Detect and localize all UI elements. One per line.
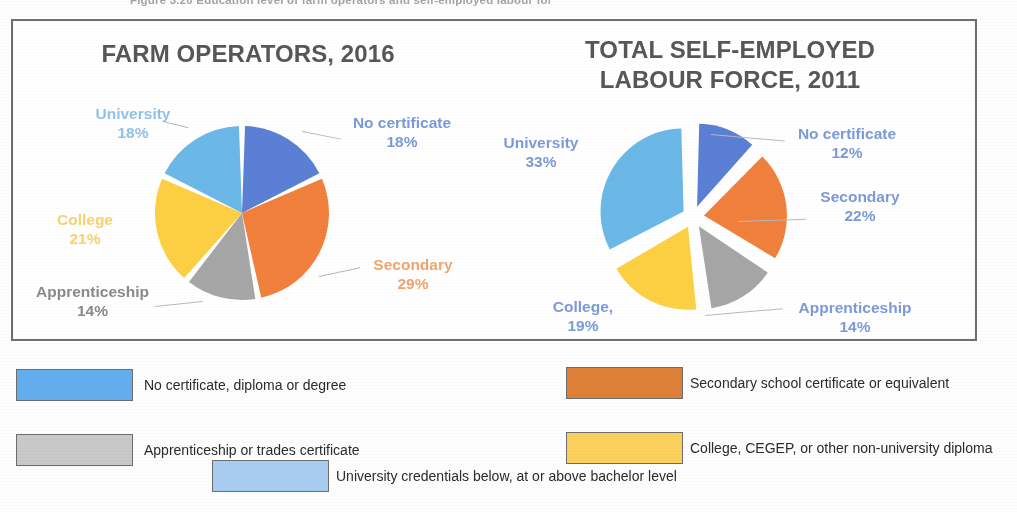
slice-label-college-selfemp-pct: 19% — [531, 316, 635, 335]
chart-title-self-employed-line1: TOTAL SELF-EMPLOYED — [483, 35, 977, 65]
slice-label-no-certificate-farm-name: No certificate — [353, 114, 451, 131]
slice-label-no-certificate-farm: No certificate 18% — [339, 113, 465, 151]
slice-label-college-selfemp: College, 19% — [531, 297, 635, 335]
legend-swatch-no-certificate — [16, 369, 133, 401]
slice-label-no-certificate-farm-pct: 18% — [339, 132, 465, 151]
chart-panel-farm-operators: FARM OPERATORS, 2016 University 18% No c… — [13, 21, 483, 339]
figure-page: Figure 3.20 Education level of farm oper… — [0, 0, 1017, 512]
legend-label-college: College, CEGEP, or other non-university … — [690, 432, 992, 464]
slice-label-apprenticeship-selfemp-name: Apprenticeship — [799, 299, 912, 316]
chart-title-self-employed-line2: LABOUR FORCE, 2011 — [483, 65, 977, 95]
slice-label-college-farm-pct: 21% — [35, 229, 135, 248]
pie-slice-university — [601, 128, 684, 249]
legend-swatch-university — [212, 460, 329, 492]
slice-label-apprenticeship-farm-name: Apprenticeship — [36, 283, 149, 300]
slice-label-college-farm: College 21% — [35, 210, 135, 248]
slice-label-no-certificate-selfemp: No certificate 12% — [782, 124, 912, 162]
slice-label-apprenticeship-farm: Apprenticeship 14% — [25, 282, 160, 320]
slice-label-college-farm-name: College — [57, 211, 113, 228]
slice-label-university-selfemp-name: University — [504, 134, 579, 151]
slice-label-college-selfemp-name: College, — [553, 298, 613, 315]
pie-chart-farm-operators — [154, 125, 330, 301]
legend-label-university: University credentials below, at or abov… — [336, 460, 677, 492]
slice-label-secondary-selfemp-pct: 22% — [805, 206, 915, 225]
chart-panel-self-employed: TOTAL SELF-EMPLOYED LABOUR FORCE, 2011 U… — [483, 21, 977, 339]
slice-label-secondary-selfemp-name: Secondary — [820, 188, 899, 205]
slice-label-secondary-selfemp: Secondary 22% — [805, 187, 915, 225]
figure-caption: Figure 3.20 Education level of farm oper… — [130, 0, 550, 8]
slice-label-apprenticeship-selfemp: Apprenticeship 14% — [785, 298, 925, 336]
legend: No certificate, diploma or degree Second… — [0, 341, 1017, 512]
slice-label-university-farm-pct: 18% — [85, 123, 181, 142]
slice-label-university-selfemp: University 33% — [487, 133, 595, 171]
slice-label-secondary-farm-pct: 29% — [358, 274, 468, 293]
pie-chart-self-employed — [593, 117, 793, 317]
slice-label-no-certificate-selfemp-name: No certificate — [798, 125, 896, 142]
slice-label-university-farm-name: University — [96, 105, 171, 122]
slice-label-no-certificate-selfemp-pct: 12% — [782, 143, 912, 162]
legend-swatch-apprenticeship — [16, 434, 133, 466]
legend-label-no-certificate: No certificate, diploma or degree — [144, 369, 346, 401]
slice-label-secondary-farm: Secondary 29% — [358, 255, 468, 293]
slice-label-apprenticeship-farm-pct: 14% — [25, 301, 160, 320]
slice-label-secondary-farm-name: Secondary — [373, 256, 452, 273]
legend-swatch-secondary — [566, 367, 683, 399]
legend-label-secondary: Secondary school certificate or equivale… — [690, 367, 949, 399]
leader-line-apprenticeship-farm — [155, 301, 203, 307]
chart-frame: FARM OPERATORS, 2016 University 18% No c… — [11, 19, 977, 341]
chart-title-farm-operators: FARM OPERATORS, 2016 — [13, 39, 483, 69]
slice-label-university-selfemp-pct: 33% — [487, 152, 595, 171]
slice-label-apprenticeship-selfemp-pct: 14% — [785, 317, 925, 336]
